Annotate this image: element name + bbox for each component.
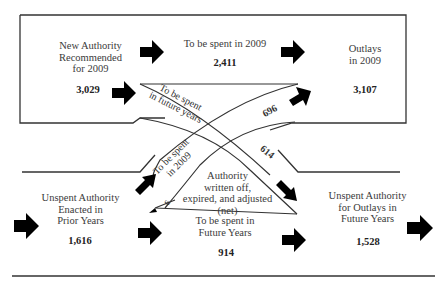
arrow-icon (149, 208, 157, 213)
unspent-future-value: 1,528 (338, 236, 398, 247)
written-off-label: Authority written off, expired, and adju… (170, 170, 285, 216)
label-line: Future Years (175, 227, 275, 239)
future-years-value: 914 (196, 247, 256, 258)
arrow-icon (140, 40, 164, 64)
prior-unspent-value: 1,616 (50, 235, 110, 246)
label-line: Prior Years (28, 215, 133, 227)
outlays-2009-value: 3,107 (335, 84, 395, 95)
label-line: To be spent in (175, 215, 275, 227)
label-line: in 2009 (335, 55, 395, 67)
middle-rule-left (22, 155, 155, 172)
future-years-label: To be spent in Future Years (175, 215, 275, 238)
prior-unspent-label: Unspent Authority Enacted in Prior Years (28, 192, 133, 227)
arrow-icon (281, 40, 305, 64)
middle-rule-right (278, 150, 400, 172)
label-line: Authority (170, 170, 285, 182)
label-line: expired, and adjusted (170, 193, 285, 205)
label-line: Unspent Authority (28, 192, 133, 204)
label-line: Recommended (38, 52, 143, 64)
label-line: for 2009 (38, 63, 143, 75)
outlays-2009-label: Outlays in 2009 (335, 43, 395, 66)
label-line: Future Years (320, 213, 415, 225)
label-line: for Outlays in (320, 202, 415, 214)
label-line: written off, (170, 182, 285, 194)
new-authority-label: New Authority Recommended for 2009 (38, 40, 143, 75)
unspent-future-label: Unspent Authority for Outlays in Future … (320, 190, 415, 225)
label-line: Unspent Authority (320, 190, 415, 202)
new-authority-value: 3,029 (58, 84, 118, 95)
spent-2009-value: 2,411 (195, 57, 255, 68)
arrow-icon (289, 87, 311, 106)
spent-2009-label: To be spent in 2009 (170, 38, 280, 50)
label-line: New Authority (38, 40, 143, 52)
arrow-icon (138, 221, 162, 245)
label-line: Outlays (335, 43, 395, 55)
label-line: Enacted in (28, 204, 133, 216)
arrow-icon (282, 228, 306, 252)
